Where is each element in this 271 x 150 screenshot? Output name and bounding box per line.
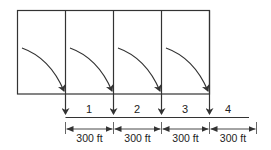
dimension-label: 300 ft bbox=[124, 132, 150, 144]
segment-number: 2 bbox=[134, 103, 140, 115]
segment-number: 4 bbox=[225, 103, 231, 115]
flow-curve-arrows bbox=[22, 48, 208, 91]
segment-number: 1 bbox=[86, 103, 92, 115]
segment-number: 3 bbox=[182, 103, 188, 115]
dimension-label: 300 ft bbox=[76, 132, 102, 144]
dimension-label: 300 ft bbox=[172, 132, 198, 144]
divider-lines bbox=[66, 11, 210, 115]
dimension-label: 300 ft bbox=[220, 132, 246, 144]
flow-segment-diagram: 1 2 3 4 300 ft 300 ft 300 ft 300 ft bbox=[0, 0, 271, 150]
